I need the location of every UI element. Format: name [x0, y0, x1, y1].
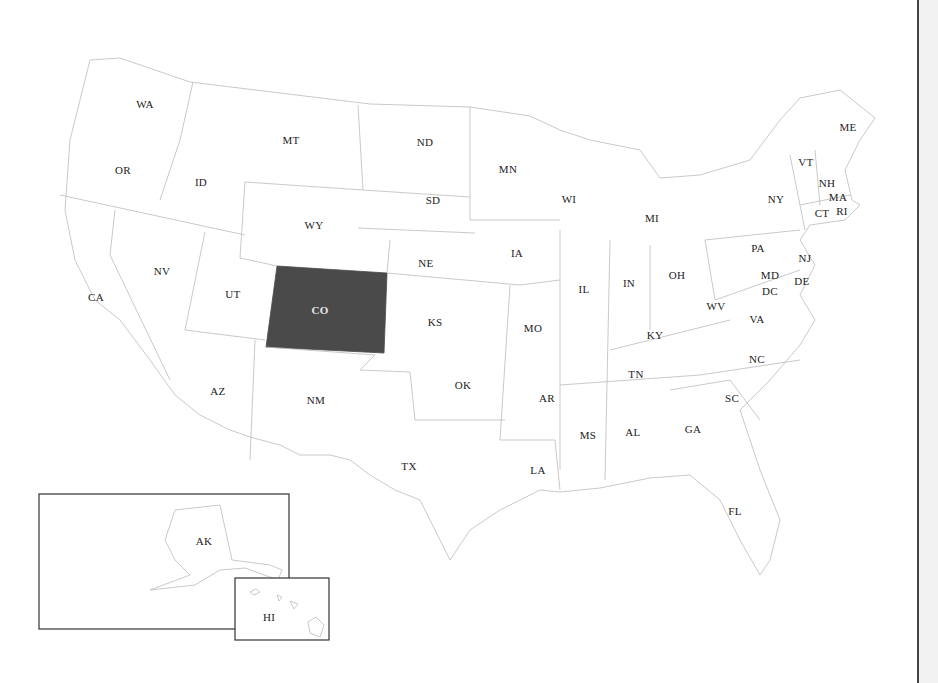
state-label-ca[interactable]: CA: [88, 291, 104, 303]
state-label-va[interactable]: VA: [749, 313, 764, 325]
state-label-hi[interactable]: HI: [263, 611, 275, 623]
state-label-nv[interactable]: NV: [154, 265, 171, 277]
state-label-la[interactable]: LA: [530, 464, 545, 476]
state-label-oh[interactable]: OH: [669, 269, 686, 281]
state-label-or[interactable]: OR: [115, 164, 131, 176]
state-label-ny[interactable]: NY: [768, 193, 785, 205]
state-label-ri[interactable]: RI: [836, 205, 848, 217]
state-label-mi[interactable]: MI: [645, 212, 659, 224]
state-label-al[interactable]: AL: [625, 426, 640, 438]
state-label-il[interactable]: IL: [579, 283, 590, 295]
state-label-ok[interactable]: OK: [455, 379, 472, 391]
state-label-pa[interactable]: PA: [751, 242, 765, 254]
state-label-vt[interactable]: VT: [798, 156, 813, 168]
state-label-wa[interactable]: WA: [136, 98, 154, 110]
state-label-wi[interactable]: WI: [562, 193, 577, 205]
state-label-nc[interactable]: NC: [749, 353, 765, 365]
state-label-nm[interactable]: NM: [307, 394, 325, 406]
state-label-fl[interactable]: FL: [728, 505, 741, 517]
state-label-de[interactable]: DE: [794, 275, 809, 287]
state-label-ak[interactable]: AK: [196, 535, 213, 547]
state-label-sd[interactable]: SD: [426, 194, 441, 206]
state-label-mt[interactable]: MT: [282, 134, 299, 146]
state-label-ne[interactable]: NE: [418, 257, 433, 269]
state-label-az[interactable]: AZ: [210, 385, 225, 397]
state-label-nh[interactable]: NH: [819, 177, 836, 189]
state-label-mn[interactable]: MN: [499, 163, 517, 175]
scrollbar-track[interactable]: [919, 0, 938, 683]
state-label-id[interactable]: ID: [195, 176, 207, 188]
state-label-ma[interactable]: MA: [829, 191, 847, 203]
state-label-ky[interactable]: KY: [647, 329, 664, 341]
state-label-ut[interactable]: UT: [225, 288, 240, 300]
state-label-in[interactable]: IN: [623, 277, 635, 289]
state-label-tn[interactable]: TN: [628, 368, 643, 380]
state-label-sc[interactable]: SC: [725, 392, 739, 404]
state-label-ks[interactable]: KS: [428, 316, 443, 328]
state-label-ar[interactable]: AR: [539, 392, 555, 404]
state-label-md[interactable]: MD: [761, 269, 779, 281]
state-label-ia[interactable]: IA: [511, 247, 523, 259]
state-label-nd[interactable]: ND: [417, 136, 434, 148]
state-label-co[interactable]: CO: [311, 304, 328, 316]
state-label-tx[interactable]: TX: [401, 460, 416, 472]
state-label-me[interactable]: ME: [839, 121, 856, 133]
state-label-mo[interactable]: MO: [524, 322, 542, 334]
state-label-ga[interactable]: GA: [685, 423, 702, 435]
state-label-wy[interactable]: WY: [305, 219, 324, 231]
state-label-wv[interactable]: WV: [707, 300, 726, 312]
state-label-dc[interactable]: DC: [762, 285, 778, 297]
state-label-ct[interactable]: CT: [815, 207, 830, 219]
state-label-ms[interactable]: MS: [580, 429, 597, 441]
state-label-nj[interactable]: NJ: [799, 252, 812, 264]
